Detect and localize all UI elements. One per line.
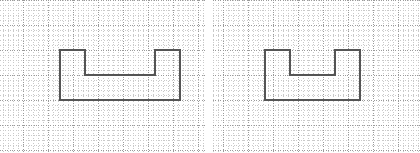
panel-right	[213, 0, 420, 153]
shape-layer-left	[0, 0, 205, 153]
shape-layer-right	[213, 0, 420, 153]
right-shape-outline	[265, 50, 360, 100]
figure-canvas	[0, 0, 420, 153]
panel-left	[0, 0, 205, 153]
left-shape-outline	[60, 50, 180, 100]
